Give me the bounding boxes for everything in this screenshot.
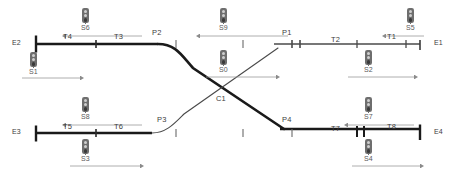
segment-label-T1: T1 — [387, 33, 396, 41]
signal-label-S2: S2 — [364, 66, 373, 73]
point-label-P4: P4 — [282, 116, 292, 124]
crossing-label-C1: C1 — [216, 95, 226, 103]
signal-label-S9: S9 — [219, 24, 228, 31]
signal-label-S4: S4 — [364, 155, 373, 162]
segment-label-T7: T7 — [331, 125, 340, 133]
traffic-signal-icon-S0[interactable] — [220, 50, 227, 65]
upper-track-group — [36, 36, 420, 141]
traffic-signal-icon-S5[interactable] — [407, 8, 414, 23]
traffic-signal-icon-S6[interactable] — [82, 8, 89, 23]
segment-label-T2: T2 — [331, 36, 340, 44]
segment-label-T8: T8 — [387, 123, 396, 131]
segment-label-T6: T6 — [114, 123, 123, 131]
segment-label-T3: T3 — [114, 33, 123, 41]
signal-label-S5: S5 — [406, 24, 415, 31]
signal-label-S3: S3 — [81, 155, 90, 162]
traffic-signal-icon-S2[interactable] — [365, 50, 372, 65]
endpoint-label-E2: E2 — [12, 39, 21, 46]
segment-label-T4: T4 — [63, 33, 72, 41]
traffic-signal-icon-S9[interactable] — [220, 8, 227, 23]
signal-label-S8: S8 — [81, 113, 90, 120]
diagram-canvas: E2 E1 E3 E4 T4 T3 T2 T1 T5 T6 T7 T8 P2 P… — [0, 0, 456, 181]
point-label-P2: P2 — [152, 29, 162, 37]
traffic-signal-icon-S8[interactable] — [82, 97, 89, 112]
endpoint-label-E1: E1 — [434, 39, 443, 46]
endpoint-label-E3: E3 — [12, 128, 21, 135]
signal-label-S0: S0 — [219, 66, 228, 73]
traffic-signal-icon-S7[interactable] — [365, 97, 372, 112]
point-label-P3: P3 — [157, 116, 167, 124]
traffic-signal-icon-S3[interactable] — [82, 139, 89, 154]
endpoint-label-E4: E4 — [434, 128, 443, 135]
track-schematic-svg — [0, 0, 456, 181]
point-label-P1: P1 — [282, 29, 292, 37]
signal-label-S7: S7 — [364, 113, 373, 120]
signal-label-S6: S6 — [81, 24, 90, 31]
segment-label-T5: T5 — [63, 123, 72, 131]
diagonal-route-P3-P1 — [152, 48, 278, 133]
signal-label-S1: S1 — [29, 68, 38, 75]
traffic-signal-icon-S4[interactable] — [365, 139, 372, 154]
traffic-signal-icon-S1[interactable] — [30, 52, 37, 67]
